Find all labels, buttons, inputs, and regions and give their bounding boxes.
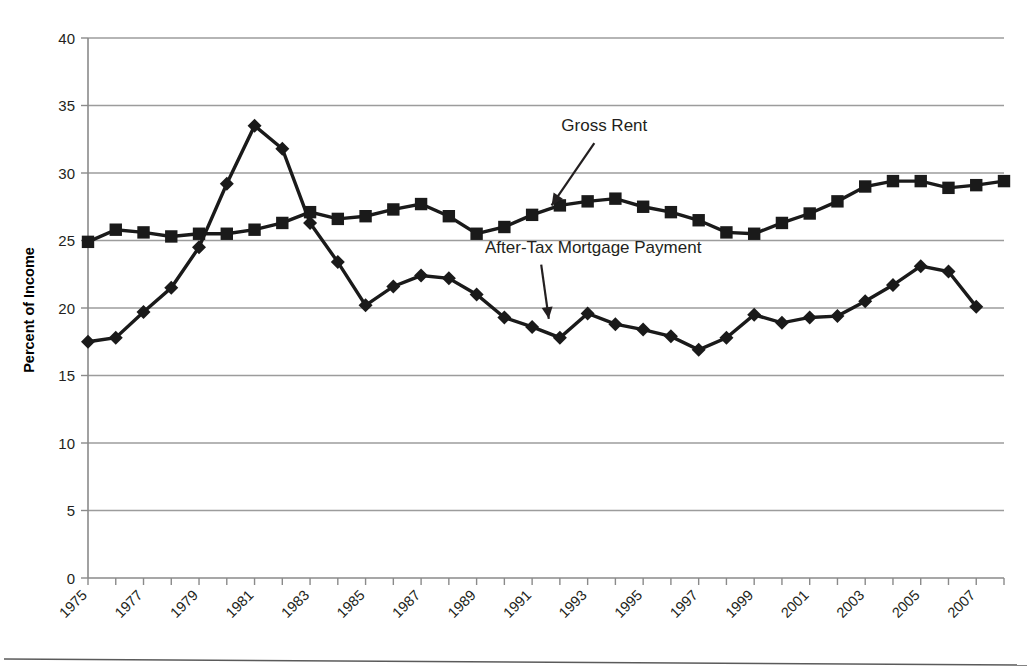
data-point-marker <box>720 226 732 238</box>
data-point-marker <box>692 214 704 226</box>
y-tick-label-20: 20 <box>58 300 75 317</box>
data-point-marker <box>137 226 149 238</box>
data-point-marker <box>248 224 260 236</box>
chart-figure: 0510152025303540 19751977197919811983198… <box>0 0 1031 672</box>
data-point-marker <box>942 182 954 194</box>
annotation-label-1: Gross Rent <box>561 116 647 135</box>
data-point-marker <box>831 195 843 207</box>
data-point-marker <box>609 192 621 204</box>
data-point-marker <box>998 175 1010 187</box>
data-point-marker <box>637 201 649 213</box>
data-point-marker <box>415 198 427 210</box>
data-point-marker <box>526 209 538 221</box>
data-point-marker <box>443 210 455 222</box>
data-point-marker <box>859 180 871 192</box>
data-point-marker <box>332 213 344 225</box>
y-tick-label-35: 35 <box>58 97 75 114</box>
data-point-marker <box>82 236 94 248</box>
y-tick-label-15: 15 <box>58 367 75 384</box>
data-point-marker <box>970 179 982 191</box>
data-point-marker <box>498 221 510 233</box>
data-point-marker <box>915 175 927 187</box>
data-point-marker <box>221 228 233 240</box>
y-tick-label-0: 0 <box>67 570 75 587</box>
y-tick-label-40: 40 <box>58 30 75 47</box>
data-point-marker <box>165 230 177 242</box>
data-point-marker <box>470 228 482 240</box>
data-point-marker <box>276 217 288 229</box>
figure-background <box>0 0 1031 672</box>
data-point-marker <box>804 207 816 219</box>
annotation-label-2: After-Tax Mortgage Payment <box>485 238 702 257</box>
data-point-marker <box>387 203 399 215</box>
y-axis-label: Percent of Income <box>21 247 37 373</box>
y-tick-label-25: 25 <box>58 232 75 249</box>
data-point-marker <box>776 217 788 229</box>
data-point-marker <box>665 206 677 218</box>
data-point-marker <box>581 195 593 207</box>
data-point-marker <box>110 224 122 236</box>
y-tick-label-30: 30 <box>58 165 75 182</box>
y-tick-label-5: 5 <box>67 502 75 519</box>
y-tick-label-10: 10 <box>58 435 75 452</box>
data-point-marker <box>748 228 760 240</box>
data-point-marker <box>887 175 899 187</box>
data-point-marker <box>359 210 371 222</box>
